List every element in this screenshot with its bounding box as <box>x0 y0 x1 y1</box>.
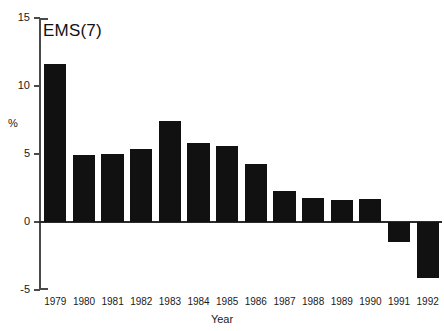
x-tick-label: 1989 <box>328 296 356 307</box>
bar <box>44 64 66 222</box>
x-tick-label: 1980 <box>70 296 98 307</box>
bar <box>130 149 152 222</box>
x-tick-label: 1990 <box>356 296 384 307</box>
bar <box>273 191 295 222</box>
x-tick-label: 1986 <box>242 296 270 307</box>
bar <box>359 199 381 222</box>
x-tick-label: 1987 <box>271 296 299 307</box>
bar <box>159 121 181 222</box>
bar <box>73 155 95 222</box>
x-tick-label: 1991 <box>385 296 413 307</box>
x-axis-title: Year <box>0 313 444 325</box>
bar <box>302 198 324 223</box>
x-tick-label: 1988 <box>299 296 327 307</box>
x-tick-label: 1984 <box>185 296 213 307</box>
bar <box>245 164 267 223</box>
bar <box>388 222 410 242</box>
plot-area <box>0 0 444 331</box>
x-tick-label: 1979 <box>41 296 69 307</box>
x-tick-label: 1981 <box>99 296 127 307</box>
x-tick-label: 1985 <box>213 296 241 307</box>
bar <box>101 154 123 222</box>
bar-chart: 151050-5 % EMS(7) 1979198019811982198319… <box>0 0 444 331</box>
bar <box>331 200 353 222</box>
bar <box>187 143 209 222</box>
bar <box>417 222 439 278</box>
x-tick-label: 1983 <box>156 296 184 307</box>
bar <box>216 146 238 222</box>
x-tick-label: 1992 <box>414 296 442 307</box>
chart-title: EMS(7) <box>43 21 102 40</box>
x-tick-label: 1982 <box>127 296 155 307</box>
